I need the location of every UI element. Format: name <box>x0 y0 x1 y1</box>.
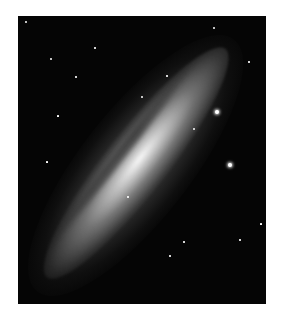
star <box>228 163 232 167</box>
star <box>260 223 261 224</box>
star <box>193 128 195 130</box>
star <box>183 241 185 243</box>
star <box>50 58 52 60</box>
star <box>57 115 58 116</box>
star <box>166 75 168 77</box>
galaxy-photo <box>18 16 266 304</box>
star <box>127 196 129 198</box>
star <box>169 255 171 257</box>
star <box>94 47 96 49</box>
galaxy-disk <box>23 30 250 297</box>
star <box>213 27 215 29</box>
star <box>215 110 219 114</box>
star <box>75 76 77 78</box>
star <box>248 61 250 63</box>
star <box>25 21 27 23</box>
star <box>46 161 47 162</box>
star <box>239 239 241 241</box>
